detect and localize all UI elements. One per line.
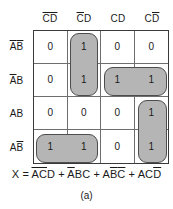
equation-operator: + — [58, 168, 65, 180]
kmap-cell[interactable]: 0 — [68, 97, 102, 130]
term4-d: D — [153, 168, 161, 180]
kmap-cell-value: 1 — [81, 75, 87, 85]
equation-term-2: ABC — [67, 168, 90, 180]
row-header-2-b: B — [17, 108, 24, 119]
row-header-ab: AB — [0, 97, 33, 131]
row-header-a-bar-b: AB — [0, 64, 33, 98]
term2-c: C — [82, 168, 90, 180]
column-header-1-c: C — [77, 13, 84, 24]
kmap-cell-value: 1 — [81, 42, 87, 52]
column-header-0-d: D — [50, 13, 57, 24]
kmap-cell-value: 0 — [114, 42, 120, 52]
kmap-cell-value: 1 — [47, 142, 53, 152]
row-header-2-a: A — [10, 108, 17, 119]
kmap-cell-value: 0 — [47, 42, 53, 52]
equation-operator: + — [129, 168, 136, 180]
term3-c: C — [117, 168, 125, 180]
karnaugh-map-figure: CD CD CD CD AB AB AB AB 0 1 0 0 0 1 — [0, 0, 173, 209]
kmap-cell[interactable]: 0 — [34, 97, 68, 130]
kmap-cell-value: 0 — [47, 75, 53, 85]
term1-d: D — [47, 168, 55, 180]
row-header-1-a: A — [10, 75, 17, 86]
equation-term-3: ABC — [102, 168, 125, 180]
column-header-c-d-bar: CD — [135, 8, 169, 28]
kmap-cell-value: 1 — [148, 142, 154, 152]
kmap-grid: 0 1 0 0 0 1 1 1 0 0 0 1 1 1 0 1 — [33, 30, 169, 164]
row-header-3-b: B — [17, 142, 24, 153]
column-header-row: CD CD CD CD — [33, 8, 169, 28]
kmap-cell[interactable]: 0 — [101, 130, 135, 163]
equation-output: X — [12, 168, 19, 180]
row-header-3-a: A — [10, 142, 17, 153]
row-header-a-b-bar: AB — [0, 131, 33, 165]
kmap-cell[interactable]: 0 — [34, 31, 68, 64]
term1-c: C — [39, 168, 47, 180]
column-header-cd: CD — [101, 8, 135, 28]
kmap-cell-value: 1 — [148, 108, 154, 118]
kmap-cell-value: 1 — [81, 142, 87, 152]
column-header-2-d: D — [118, 13, 125, 24]
kmap-cell-value: 1 — [114, 75, 120, 85]
column-header-1-d: D — [84, 13, 91, 24]
row-header-0-a: A — [10, 41, 17, 52]
column-header-0-c: C — [43, 13, 50, 24]
kmap-cell[interactable]: 0 — [34, 64, 68, 97]
column-header-3-d: D — [152, 13, 159, 24]
term4-c: C — [145, 168, 153, 180]
row-header-a-bar-b-bar: AB — [0, 30, 33, 64]
column-header-3-c: C — [145, 13, 152, 24]
column-header-2-c: C — [111, 13, 118, 24]
column-header-cd-bar-d-bar: CD — [33, 8, 67, 28]
kmap-cell-value: 0 — [148, 42, 154, 52]
equation-operator: + — [93, 168, 100, 180]
figure-caption: (a) — [0, 190, 173, 201]
term4-a: A — [138, 168, 145, 180]
kmap-cell[interactable]: 0 — [135, 31, 169, 64]
kmap-cell[interactable]: 0 — [101, 31, 135, 64]
kmap-cell-value: 0 — [47, 108, 53, 118]
term1-a: A — [32, 168, 39, 180]
equation-term-1: ACD — [32, 168, 56, 180]
equation-equals: = — [22, 168, 29, 180]
column-header-c-bar-d: CD — [67, 8, 101, 28]
term2-a: A — [67, 168, 74, 180]
boolean-equation: X = ACD + ABC + ABC + ACD — [0, 168, 173, 180]
group-loop-row4-cols1-2[interactable] — [36, 134, 98, 163]
kmap-cell-value: 0 — [114, 142, 120, 152]
row-header-1-b: B — [17, 75, 24, 86]
term3-a: A — [102, 168, 109, 180]
kmap-cell-value: 0 — [81, 108, 87, 118]
kmap-cell-value: 0 — [114, 108, 120, 118]
kmap-cell-value: 1 — [148, 75, 154, 85]
group-loop-row2-cols3-4[interactable] — [104, 67, 167, 96]
kmap-cell[interactable]: 0 — [101, 97, 135, 130]
row-header-0-b: B — [17, 41, 24, 52]
row-header-column: AB AB AB AB — [0, 30, 33, 164]
equation-term-4: ACD — [138, 168, 162, 180]
